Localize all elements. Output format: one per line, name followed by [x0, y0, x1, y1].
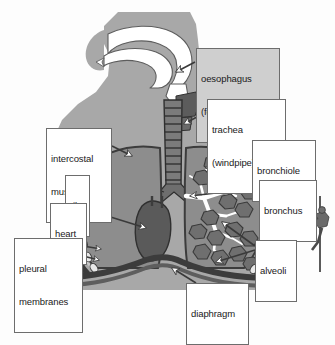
label-alveoli-line-1: alveoli	[260, 265, 292, 276]
label-intercostal-muscle-line-1: intercostal	[51, 153, 107, 164]
label-pleural-membranes-line-1: pleural	[19, 263, 78, 274]
label-pleural-membranes-line-2: membranes	[19, 296, 78, 307]
label-pleural-membranes: pleural membranes	[14, 238, 83, 333]
label-bronchus-line-1: bronchus	[264, 205, 312, 216]
label-alveoli: alveoli	[255, 240, 297, 302]
label-oesophagus-line-1: oesophagus	[201, 73, 275, 84]
label-bronchus: bronchus	[259, 180, 317, 242]
label-trachea-line-1: trachea	[212, 124, 281, 135]
label-diaphragm-line-1: diaphragm	[191, 308, 244, 319]
label-diaphragm: diaphragm	[186, 283, 249, 345]
label-bronchiole-line-1: bronchiole	[257, 165, 311, 176]
